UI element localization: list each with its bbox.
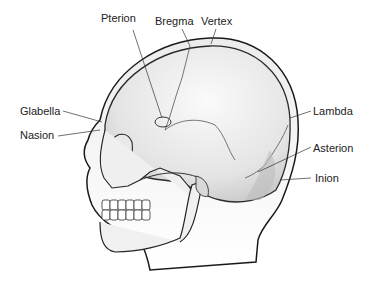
label-vertex: Vertex xyxy=(201,15,232,27)
label-glabella: Glabella xyxy=(20,105,60,117)
label-nasion: Nasion xyxy=(20,129,54,141)
label-pterion: Pterion xyxy=(101,12,136,24)
label-bregma: Bregma xyxy=(155,15,194,27)
label-lambda: Lambda xyxy=(313,105,353,117)
label-asterion: Asterion xyxy=(313,142,353,154)
label-inion: Inion xyxy=(315,172,339,184)
